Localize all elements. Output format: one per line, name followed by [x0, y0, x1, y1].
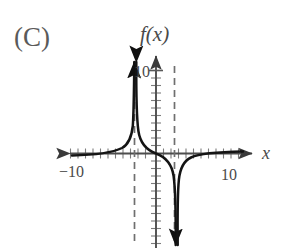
x-axis-tick-label-negative-10: −10	[59, 164, 84, 180]
x-axis-label: x	[262, 144, 270, 162]
choice-label: (C)	[14, 24, 50, 51]
y-axis-tick-label-10: 10	[134, 64, 150, 80]
x-axis-tick-label-positive-10: 10	[221, 167, 237, 183]
figure-container: (C) f(x) 10 −10 10 x	[0, 0, 282, 252]
curve-left-branch	[72, 62, 134, 156]
function-label: f(x)	[140, 24, 169, 45]
